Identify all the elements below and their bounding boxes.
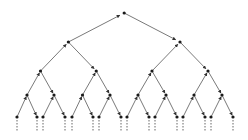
tree-edge-left [72, 97, 82, 117]
leaf-node [203, 115, 206, 118]
tree-edge-right [110, 95, 120, 115]
leaf-node [209, 115, 212, 118]
tree-edge-left [211, 97, 221, 117]
tree-edge-right [208, 71, 221, 93]
binary-tree-diagram [0, 0, 248, 140]
tree-edge-right [68, 42, 94, 69]
leaf-node [91, 115, 94, 118]
leaf-node [41, 115, 44, 118]
tree-edge-left [68, 15, 119, 42]
tree-node [192, 93, 195, 96]
tree-node [95, 69, 98, 72]
root-node [123, 11, 126, 14]
tree-edge-left [138, 73, 151, 95]
tree-edge-right [222, 95, 232, 115]
tree-node [52, 93, 55, 96]
leaf-node [181, 115, 184, 118]
tree-node [67, 40, 70, 43]
continuation-dashes [17, 120, 233, 131]
leaf-node [231, 115, 234, 118]
tree-node [39, 69, 42, 72]
tree-edge-left [194, 73, 207, 95]
tree-node [108, 93, 111, 96]
leaf-node [63, 115, 66, 118]
tree-edge-right [41, 71, 53, 93]
tree-edges [17, 13, 232, 117]
tree-edge-right [152, 71, 165, 93]
leaf-node [97, 115, 100, 118]
tree-edge-right [83, 95, 93, 115]
leaf-node [119, 115, 122, 118]
tree-edge-left [183, 97, 193, 117]
tree-node [206, 69, 209, 72]
leaf-node [15, 115, 18, 118]
tree-edge-left [99, 97, 109, 117]
tree-edge-left [41, 44, 67, 71]
tree-edge-left [17, 97, 26, 117]
tree-edge-left [83, 73, 96, 95]
tree-node [25, 93, 28, 96]
tree-edge-right [124, 13, 175, 40]
leaf-node [153, 115, 156, 118]
tree-node [220, 93, 223, 96]
tree-edge-left [127, 97, 137, 117]
tree-node [164, 93, 167, 96]
tree-edge-left [43, 97, 53, 117]
tree-edge-left [152, 44, 178, 71]
leaf-node [125, 115, 128, 118]
tree-edge-right [54, 95, 64, 115]
leaf-node [35, 115, 38, 118]
tree-node [150, 69, 153, 72]
tree-node [81, 93, 84, 96]
tree-edge-right [138, 95, 148, 115]
tree-edge-left [27, 73, 39, 95]
tree-edge-right [27, 95, 36, 115]
tree-edge-left [155, 97, 165, 117]
tree-node [178, 40, 181, 43]
tree-node [136, 93, 139, 96]
tree-edge-right [166, 95, 176, 115]
leaf-node [147, 115, 150, 118]
tree-edge-right [180, 42, 206, 69]
tree-edge-right [96, 71, 109, 93]
leaf-node [70, 115, 73, 118]
leaf-node [175, 115, 178, 118]
tree-edge-right [194, 95, 204, 115]
